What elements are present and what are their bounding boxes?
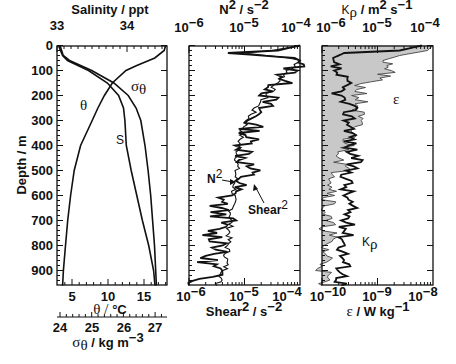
depth-tick: 700: [31, 213, 53, 228]
krho-annotation: Kρ: [362, 235, 378, 252]
middle-plot-frame: [189, 46, 300, 285]
shear2-tick-labels: 10−6 10−5 10−4: [176, 284, 302, 304]
depth-tick: 600: [31, 188, 53, 203]
n2-annotation: N2: [207, 167, 223, 186]
middle-axis-ticks: [189, 46, 300, 286]
depth-tick: 300: [31, 113, 53, 128]
sigma-annotation: σθ: [131, 78, 146, 97]
shear2-arrow: [256, 188, 264, 203]
depth-tick: 100: [31, 63, 53, 78]
depth-tick: 500: [31, 163, 53, 178]
svg-text:10−8: 10−8: [408, 284, 437, 304]
left-panel: Salinity / ppt 33 34 0 100 200 300 400 5…: [14, 2, 167, 353]
depth-tick: 0: [46, 38, 53, 53]
salinity-annotation: S: [116, 133, 124, 147]
sigma-tick: 27: [148, 320, 162, 335]
n2-arrowhead-icon: [230, 179, 236, 185]
svg-text:10−9: 10−9: [362, 284, 391, 304]
depth-tick-labels: 0 100 200 300 400 500 600 700 800 900: [31, 38, 53, 278]
depth-tick: 900: [31, 263, 53, 278]
sigma-axis-title: σθ / kg m−3: [72, 330, 143, 353]
salinity-tick-34: 34: [120, 18, 135, 33]
sigma-tick: 25: [85, 320, 99, 335]
salinity-axis-title: Salinity / ppt: [71, 2, 149, 17]
shear2-profile-line: [188, 46, 304, 286]
theta-tick: 15: [137, 289, 151, 304]
right-panel: Kρ / m2 s−1 10−6 10−5 10−4 ε Kρ 10−10 10…: [310, 0, 441, 319]
svg-text:10−4: 10−4: [281, 15, 311, 35]
depth-axis-title: Depth / m: [14, 135, 29, 194]
depth-tick: 200: [31, 88, 53, 103]
svg-text:10−10: 10−10: [310, 284, 347, 304]
svg-text:10−6: 10−6: [176, 284, 205, 304]
theta-annotation: θ: [80, 97, 87, 113]
n2-tick-labels: 10−6 10−5 10−4: [174, 15, 311, 35]
epsilon-tick-labels: 10−10 10−9 10−8: [310, 284, 438, 304]
middle-panel: N2 / s−2 10−6 10−5 10−4 N2 Shear2 10−6 1…: [174, 0, 311, 319]
depth-tick: 400: [31, 138, 53, 153]
shear2-axis-title: Shear2 / s−2: [206, 299, 282, 319]
epsilon-axis-title: ε / W kg−1: [346, 299, 409, 319]
svg-text:10−6: 10−6: [316, 15, 345, 35]
shear2-annotation: Shear2: [248, 198, 288, 217]
svg-text:10−5: 10−5: [229, 15, 258, 35]
figure: Salinity / ppt 33 34 0 100 200 300 400 5…: [0, 0, 456, 364]
svg-text:10−5: 10−5: [362, 15, 391, 35]
svg-text:10−4: 10−4: [410, 15, 440, 35]
svg-text:10−6: 10−6: [174, 15, 203, 35]
salinity-tick-33: 33: [50, 18, 64, 33]
krho-tick-labels: 10−6 10−5 10−4: [316, 15, 440, 35]
theta-tick: 5: [68, 289, 75, 304]
sigma-tick: 24: [53, 320, 68, 335]
epsilon-annotation: ε: [393, 91, 399, 107]
depth-tick: 800: [31, 238, 53, 253]
